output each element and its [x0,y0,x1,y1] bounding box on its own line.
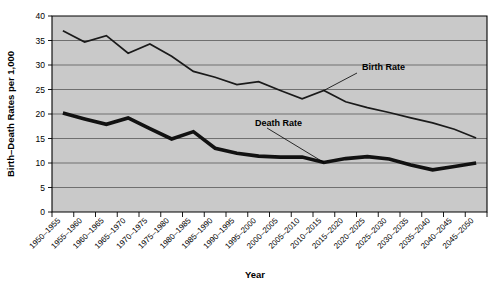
birth-rate-annotation-label: Birth Rate [362,62,405,72]
y-tick-label: 5 [40,183,45,193]
y-tick-label: 10 [36,158,46,168]
x-axis-title: Year [245,269,265,280]
death-rate-annotation-label: Death Rate [255,118,302,128]
y-axis-title: Birth–Death Rates per 1,000 [5,51,16,177]
y-tick-label: 35 [36,36,46,46]
y-tick-label: 40 [36,11,46,21]
y-tick-label: 30 [36,60,46,70]
x-axis-tick-marks [52,212,487,217]
y-tick-label: 25 [36,85,46,95]
birth-death-rate-line-chart: 0510152025303540 1950–19551955–19601960–… [0,0,503,290]
y-tick-label: 20 [36,109,46,119]
chart-container: 0510152025303540 1950–19551955–19601960–… [0,0,503,290]
y-tick-label: 15 [36,134,46,144]
y-tick-label: 0 [40,207,45,217]
